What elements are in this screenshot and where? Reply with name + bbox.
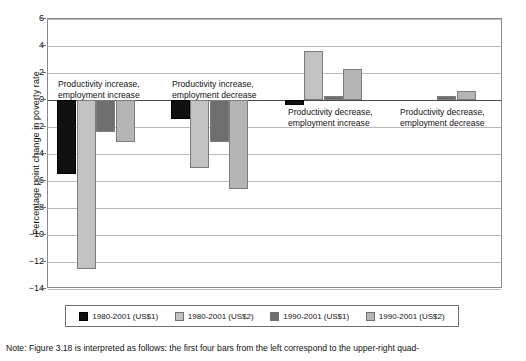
legend-swatch-icon-2 xyxy=(175,312,184,321)
y-tick-label--2: −2 xyxy=(4,121,44,131)
legend-swatch-icon-4 xyxy=(366,312,375,321)
y-tick-label-6: 6 xyxy=(4,13,44,23)
legend-swatch-icon-1 xyxy=(79,312,88,321)
y-tick-mark--14 xyxy=(41,288,46,289)
bar-group1-series2 xyxy=(77,100,96,269)
legend-item-1[interactable]: 1980-2001 (US$1) xyxy=(79,312,158,321)
bar-group1-series3 xyxy=(96,100,115,132)
y-axis-tick-labels: 6420−2−4−6−8−10−12−14 xyxy=(0,18,44,288)
y-tick-mark-6 xyxy=(41,18,46,19)
bar-group2-series2 xyxy=(190,100,209,168)
bar-group4-series3 xyxy=(437,96,456,100)
figure-note: Note: Figure 3.18 is interpreted as foll… xyxy=(6,343,522,354)
gridline--14 xyxy=(48,289,501,290)
bar-group1-series4 xyxy=(116,100,135,142)
bar-group3-series3 xyxy=(324,96,343,100)
legend-label-1: 1980-2001 (US$1) xyxy=(92,312,158,321)
y-tick-label-2: 2 xyxy=(4,67,44,77)
figure-container: Percentage point change in poverty rate … xyxy=(0,0,526,361)
y-tick-label-4: 4 xyxy=(4,40,44,50)
bar-group1-series1 xyxy=(57,100,76,174)
bar-group3-series2 xyxy=(304,51,323,100)
y-tick-mark--12 xyxy=(41,261,46,262)
legend-item-3[interactable]: 1990-2001 (US$1) xyxy=(270,312,349,321)
y-tick-label--14: −14 xyxy=(4,283,44,293)
y-tick-mark-4 xyxy=(41,45,46,46)
y-tick-mark--10 xyxy=(41,234,46,235)
bar-group3-series1 xyxy=(285,100,304,105)
y-tick-label--10: −10 xyxy=(4,229,44,239)
bar-group3-series4 xyxy=(343,69,362,100)
y-tick-label--6: −6 xyxy=(4,175,44,185)
plot-area: Productivity increase,employment increas… xyxy=(47,18,502,288)
bar-group2-series3 xyxy=(210,100,229,142)
y-tick-label-0: 0 xyxy=(4,94,44,104)
y-tick-mark--6 xyxy=(41,180,46,181)
legend-item-2[interactable]: 1980-2001 (US$2) xyxy=(175,312,254,321)
legend-swatch-icon-3 xyxy=(270,312,279,321)
legend-label-4: 1990-2001 (US$2) xyxy=(379,312,445,321)
legend-label-2: 1980-2001 (US$2) xyxy=(188,312,254,321)
bar-series-layer xyxy=(48,19,501,287)
y-tick-label--12: −12 xyxy=(4,256,44,266)
y-tick-mark--4 xyxy=(41,153,46,154)
y-tick-label--8: −8 xyxy=(4,202,44,212)
chart-legend: 1980-2001 (US$1)1980-2001 (US$2)1990-200… xyxy=(65,305,459,327)
y-tick-mark-2 xyxy=(41,72,46,73)
bar-group4-series4 xyxy=(457,91,476,100)
y-tick-mark--2 xyxy=(41,126,46,127)
y-tick-mark--8 xyxy=(41,207,46,208)
legend-label-3: 1990-2001 (US$1) xyxy=(283,312,349,321)
y-tick-mark-0 xyxy=(41,99,46,100)
y-tick-label--4: −4 xyxy=(4,148,44,158)
bar-group2-series4 xyxy=(229,100,248,189)
legend-item-4[interactable]: 1990-2001 (US$2) xyxy=(366,312,445,321)
bar-group2-series1 xyxy=(171,100,190,119)
